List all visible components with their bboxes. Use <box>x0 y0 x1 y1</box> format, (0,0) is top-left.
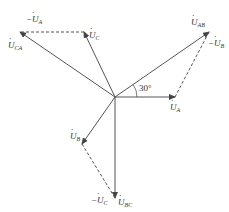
label-ua: UA · <box>170 95 181 113</box>
svg-text:·: · <box>119 190 121 200</box>
svg-text:−UC: −UC <box>91 195 109 206</box>
phasor-ub <box>82 97 115 144</box>
label-ub: UB · <box>70 124 81 142</box>
label-uca: UCA · <box>8 33 23 51</box>
label-uab: UAB · <box>191 10 205 28</box>
svg-text:·: · <box>71 124 73 134</box>
angle-label: 30° <box>139 83 152 93</box>
svg-text:·: · <box>97 188 99 198</box>
svg-text:−UB: −UB <box>208 38 225 49</box>
phasor-neg-ub <box>175 32 209 97</box>
label-neg-ua: −UA · <box>26 7 43 25</box>
label-uc: UC · <box>89 23 101 41</box>
svg-text:·: · <box>90 23 92 33</box>
label-neg-ub: −UB · <box>208 31 225 49</box>
phasor-diagram: 30° UA · UAB · −UB · UC · −UA · UCA · UB… <box>0 0 229 212</box>
svg-text:·: · <box>9 33 11 43</box>
svg-text:·: · <box>32 7 34 17</box>
phasor-uc <box>84 32 115 97</box>
svg-text:·: · <box>171 95 173 105</box>
svg-text:−UA: −UA <box>26 14 43 25</box>
phasor-uab <box>115 32 209 97</box>
svg-text:·: · <box>214 31 216 41</box>
label-ubc: UBC · <box>118 190 133 208</box>
label-neg-uc: −UC · <box>91 188 109 206</box>
svg-text:·: · <box>192 10 194 20</box>
angle-arc <box>133 85 137 98</box>
phasor-uca <box>20 32 115 97</box>
